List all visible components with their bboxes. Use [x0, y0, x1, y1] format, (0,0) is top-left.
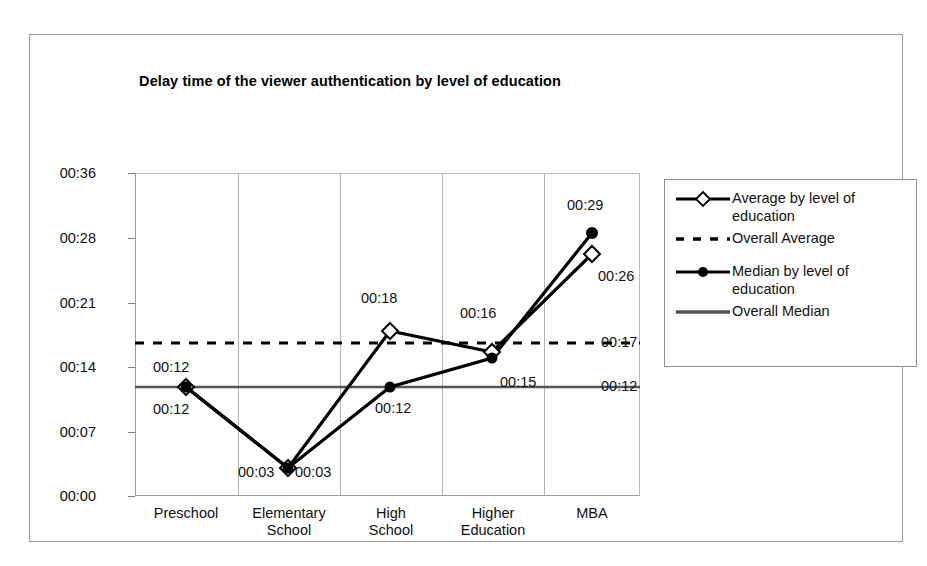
- data-label-elementary-average: 00:03: [238, 465, 274, 480]
- y-axis-tick-label-3: 00:14: [34, 360, 96, 374]
- average-series-line: [186, 254, 592, 468]
- data-label-highschool-median: 00:12: [375, 401, 411, 416]
- data-label-mba-median: 00:29: [567, 198, 603, 213]
- legend-label-median-by-level: Median by level of education: [732, 262, 849, 298]
- legend-label-overall-median: Overall Median: [732, 302, 830, 320]
- legend-label-average-by-level: Average by level of education: [732, 189, 855, 225]
- median-series-markers: [181, 227, 599, 474]
- y-axis-tick-label-1: 00:28: [34, 231, 96, 245]
- x-axis-label-high-school-line2: School: [335, 522, 447, 539]
- legend-key-open-diamond-icon: [674, 190, 732, 208]
- x-axis-label-mba: MBA: [536, 505, 648, 522]
- data-label-mba-average: 00:26: [598, 269, 634, 284]
- legend-key-solid-gray-line-icon: [674, 303, 732, 321]
- y-axis-tick-label-5: 00:00: [34, 489, 96, 503]
- x-axis-label-elementary-school-line2: School: [233, 522, 345, 539]
- legend-item-median-by-level[interactable]: Median by level of education: [665, 262, 916, 298]
- x-axis-label-mba-line1: MBA: [536, 505, 648, 522]
- x-axis-label-elementary-school: Elementary School: [233, 505, 345, 539]
- x-axis-label-preschool-line1: Preschool: [130, 505, 242, 522]
- series-plot: [135, 173, 640, 496]
- x-axis-label-higher-education-line2: Education: [437, 522, 549, 539]
- data-label-highered-average: 00:16: [460, 306, 496, 321]
- y-axis-tick-mark-1: [128, 238, 135, 239]
- legend-key-filled-circle-icon: [674, 263, 732, 281]
- legend-key-dashed-line-icon: [674, 230, 732, 248]
- y-axis-tick-mark-4: [128, 432, 135, 433]
- y-axis-tick-label-2: 00:21: [34, 296, 96, 310]
- data-label-overall-median: 00:12: [601, 379, 637, 394]
- x-axis-label-high-school: High School: [335, 505, 447, 539]
- chart-title: Delay time of the viewer authentication …: [30, 73, 670, 89]
- y-axis-tick-mark-2: [128, 303, 135, 304]
- legend-label-average-line1: Average by level of: [732, 190, 855, 206]
- data-label-highschool-average: 00:18: [361, 291, 397, 306]
- legend-label-average-line2: education: [732, 208, 795, 224]
- data-label-highered-median: 00:15: [500, 375, 536, 390]
- average-series-markers: [178, 246, 600, 476]
- legend-label-median-line1: Median by level of: [732, 263, 849, 279]
- y-axis-tick-label-0: 00:36: [34, 166, 96, 180]
- y-axis-tick-label-4: 00:07: [34, 425, 96, 439]
- y-axis-tick-mark-5: [128, 496, 135, 497]
- legend-item-average-by-level[interactable]: Average by level of education: [665, 189, 916, 225]
- data-label-elementary-median: 00:03: [295, 465, 331, 480]
- x-axis-label-high-school-line1: High: [335, 505, 447, 522]
- x-axis-label-preschool: Preschool: [130, 505, 242, 522]
- x-axis-label-higher-education: Higher Education: [437, 505, 549, 539]
- legend-label-overall-average: Overall Average: [732, 229, 835, 247]
- y-axis-tick-mark-0: [128, 173, 135, 174]
- legend-label-median-line2: education: [732, 281, 795, 297]
- legend-item-overall-median[interactable]: Overall Median: [665, 302, 916, 321]
- legend-item-overall-average[interactable]: Overall Average: [665, 229, 916, 248]
- chart-frame: Delay time of the viewer authentication …: [29, 34, 903, 542]
- x-axis-label-elementary-school-line1: Elementary: [233, 505, 345, 522]
- chart-legend: Average by level of education Overall Av…: [664, 179, 917, 367]
- median-series-line: [186, 233, 592, 468]
- data-label-preschool-average: 00:12: [153, 360, 189, 375]
- data-label-overall-average: 00:17: [601, 335, 637, 350]
- data-label-preschool-median: 00:12: [153, 402, 189, 417]
- x-axis-label-higher-education-line1: Higher: [437, 505, 549, 522]
- y-axis-tick-mark-3: [128, 367, 135, 368]
